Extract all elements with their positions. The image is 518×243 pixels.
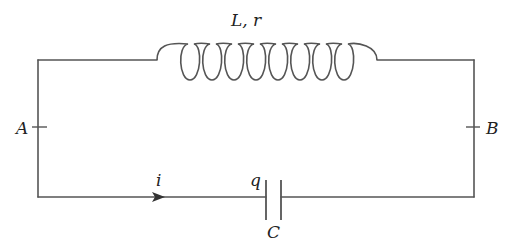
charge-label: q xyxy=(250,170,261,190)
capacitor xyxy=(266,180,281,220)
inductor-coil xyxy=(157,43,377,80)
current-label: i xyxy=(156,170,161,190)
capacitor-label: C xyxy=(267,222,280,242)
circuit-diagram: L, r A B i q C xyxy=(0,0,518,243)
node-b-label: B xyxy=(485,118,499,138)
inductor-label: L, r xyxy=(230,10,262,30)
node-a-label: A xyxy=(14,118,28,138)
inductor xyxy=(157,43,377,80)
